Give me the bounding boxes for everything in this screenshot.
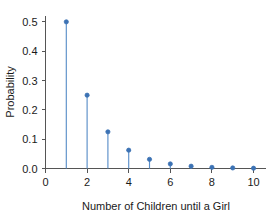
y-axis-ticks: 0.00.10.20.30.40.5 [22,16,45,175]
data-point-marker [127,148,131,152]
x-axis-title: Number of Children until a Girl [82,200,230,212]
x-tick-label: 8 [209,176,215,188]
data-point-marker [251,166,255,170]
x-tick-label: 4 [126,176,132,188]
data-point-marker [210,165,214,169]
data-point-marker [168,162,172,166]
chart-figure: 0.00.10.20.30.40.5 0246810 Probability N… [0,0,276,221]
stem-series [64,20,255,171]
x-tick-label: 0 [42,176,48,188]
data-point-marker [85,93,89,97]
data-point-marker [189,164,193,168]
data-point-marker [106,130,110,134]
stem-plot-canvas: 0.00.10.20.30.40.5 0246810 Probability N… [0,0,276,221]
x-tick-label: 6 [167,176,173,188]
x-axis-ticks: 0246810 [42,169,259,188]
y-tick-label: 0.1 [22,133,37,145]
y-tick-label: 0.2 [22,104,37,116]
data-point-marker [231,166,235,170]
y-tick-label: 0.0 [22,163,37,175]
y-tick-label: 0.3 [22,75,37,87]
data-point-marker [64,20,68,24]
data-point-marker [147,157,151,161]
y-tick-label: 0.4 [22,45,37,57]
y-axis-title: Probability [4,66,16,118]
x-tick-label: 2 [84,176,90,188]
y-tick-label: 0.5 [22,16,37,28]
x-tick-label: 10 [247,176,259,188]
